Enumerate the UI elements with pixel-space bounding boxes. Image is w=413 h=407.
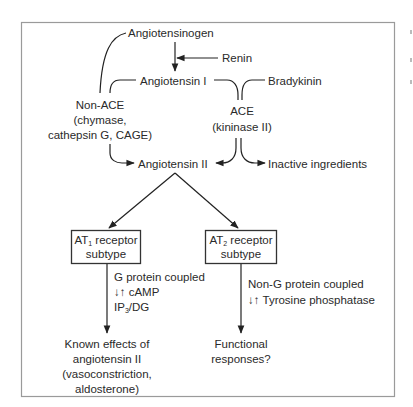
at1-effects-line4: aldosterone) (75, 383, 139, 395)
edge-mark (410, 58, 412, 62)
curve-angiotensin-i-to-ace (214, 80, 238, 100)
arrow-angiotensin-ii-to-at1 (109, 173, 175, 228)
at1-effects-line2: angiotensin II (73, 353, 141, 365)
node-angiotensin-ii: Angiotensin II (138, 158, 208, 170)
at1-subtype-label: subtype (86, 248, 126, 260)
at1-effects-line1: Known effects of (65, 338, 151, 350)
at1-signal-camp: ↓↑ cAMP (114, 286, 160, 298)
node-non-ace-detail-1: (chymase, (73, 114, 126, 126)
edge-mark (410, 80, 412, 84)
node-angiotensinogen: Angiotensinogen (128, 27, 214, 39)
node-ace-detail: (kininase II) (212, 121, 272, 133)
node-non-ace: Non-ACE (76, 99, 125, 111)
renin-angiotensin-diagram: Angiotensinogen Renin Angiotensin I Brad… (0, 0, 413, 407)
arrow-ace-to-inactive (241, 138, 265, 163)
at2-responses-line1: Functional (214, 338, 267, 350)
at2-responses-line2: responses? (211, 353, 270, 365)
curve-angiotensinogen-to-non-ace (100, 33, 126, 93)
at2-subtype-label: subtype (221, 248, 261, 260)
node-inactive-ingredients: Inactive ingredients (268, 158, 367, 170)
arrow-non-ace-to-angiotensin-ii (110, 144, 134, 163)
node-ace: ACE (230, 105, 254, 117)
curve-bradykinin-to-ace (242, 80, 265, 100)
at2-receptor-label: AT2 receptor (209, 234, 272, 247)
node-renin: Renin (222, 52, 252, 64)
at1-effects-line3: (vasoconstriction, (62, 368, 151, 380)
curve-angiotensin-i-to-non-ace (110, 80, 136, 93)
node-angiotensin-i: Angiotensin I (140, 75, 207, 87)
edge-mark (410, 30, 412, 34)
at1-signal-ip3-dg: IP3/DG (114, 301, 149, 314)
arrow-angiotensin-ii-to-at2 (175, 173, 238, 228)
at2-signal-tyrosine-phosphatase: ↓↑ Tyrosine phosphatase (248, 294, 375, 306)
at2-signal-non-g-protein: Non-G protein coupled (248, 278, 364, 290)
node-non-ace-detail-2: cathepsin G, CAGE) (48, 129, 152, 141)
arrow-ace-to-angiotensin-ii (216, 138, 236, 163)
at1-receptor-label: AT1 receptor (74, 234, 137, 247)
at1-signal-g-protein: G protein coupled (114, 271, 205, 283)
node-bradykinin: Bradykinin (268, 75, 322, 87)
